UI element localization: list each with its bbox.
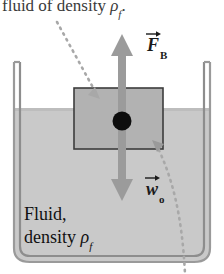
vector-overbar-arrow-icon	[145, 173, 160, 181]
fluid-rho-subscript: f	[89, 240, 92, 252]
label-fluid-density: Fluid, density ρf	[24, 203, 92, 251]
caption-fluid-density: fluid of density ρf.	[2, 0, 126, 17]
weight-subscript: o	[159, 193, 165, 205]
label-weight: w o	[146, 180, 164, 202]
weight-symbol-text: w	[146, 179, 158, 199]
label-buoyant-force: F B	[147, 36, 166, 58]
buoyant-subscript: B	[160, 49, 167, 61]
vector-symbol-w: w	[146, 180, 158, 198]
caption-text: fluid of density	[2, 0, 110, 15]
vector-overbar-arrow-icon	[146, 29, 161, 37]
fluid-label-line2: density ρf	[24, 226, 92, 251]
fluid-label-line1: Fluid,	[24, 203, 92, 226]
fluid-density-text: density	[24, 227, 81, 247]
center-of-mass-dot	[113, 112, 132, 131]
buoyant-symbol-text: F	[147, 35, 159, 55]
caption-period: .	[121, 0, 125, 15]
vector-symbol-F: F	[147, 36, 159, 54]
rho-subscript: f	[118, 8, 121, 20]
buoyancy-diagram: fluid of density ρf. F B w o Fluid, dens…	[0, 0, 224, 274]
fluid-rho-symbol: ρ	[81, 227, 90, 247]
